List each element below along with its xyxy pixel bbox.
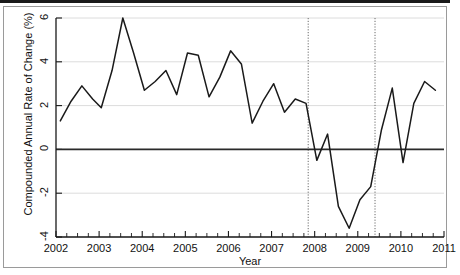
axis-major-ticks (56, 18, 444, 237)
data-series-layer (60, 18, 435, 228)
series-line (60, 18, 435, 228)
axis-spines (56, 18, 444, 237)
gridlines (56, 18, 444, 237)
annotation-vlines (308, 18, 375, 237)
